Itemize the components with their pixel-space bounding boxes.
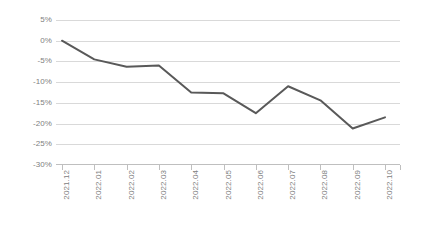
x-axis-tick-label: 2022.05 [224, 170, 233, 200]
plot-area [56, 20, 400, 165]
x-axis-tick-label: 2022.03 [159, 170, 168, 200]
x-axis-tick-label: 2022.09 [353, 170, 362, 200]
y-axis-tick-label: -25% [16, 140, 52, 148]
y-axis-tick-label: 5% [16, 16, 52, 24]
y-axis-tick-label: 0% [16, 37, 52, 45]
y-axis-tick-label: -5% [16, 57, 52, 65]
series-line [56, 20, 400, 165]
x-axis-tick-label: 2022.01 [94, 170, 103, 200]
x-axis-tick-label: 2022.02 [127, 170, 136, 200]
x-axis-tick [400, 165, 401, 170]
x-axis-tick-label: 2022.06 [256, 170, 265, 200]
x-axis-labels: 2021.12 2022.01 2022.02 2022.03 2022.04 … [56, 170, 400, 222]
y-axis-tick-label: -20% [16, 120, 52, 128]
y-axis-tick-label: -30% [16, 161, 52, 169]
x-axis-tick-label: 2021.12 [62, 170, 71, 200]
x-axis-tick-label: 2022.10 [385, 170, 394, 200]
line-chart: 5% 0% -5% -10% -15% -20% -25% -30% [0, 0, 421, 226]
y-axis-labels: 5% 0% -5% -10% -15% -20% -25% -30% [12, 20, 52, 165]
x-axis-tick-label: 2022.04 [191, 170, 200, 200]
y-axis-tick-label: -10% [16, 78, 52, 86]
x-axis-tick-label: 2022.07 [288, 170, 297, 200]
y-axis-tick-label: -15% [16, 99, 52, 107]
x-axis-tick-label: 2022.08 [320, 170, 329, 200]
